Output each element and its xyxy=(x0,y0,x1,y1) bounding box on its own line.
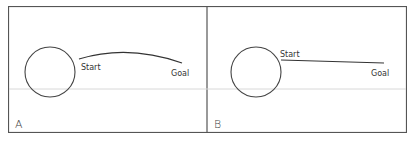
panel-b-label: B xyxy=(214,118,221,131)
panel-b-start-label: Start xyxy=(280,50,300,59)
panel-a-label: A xyxy=(15,118,23,131)
panel-a-start-label: Start xyxy=(81,63,101,72)
panel-b-straight-path xyxy=(281,60,384,63)
two-panel-diagram: Start Goal A Start Goal B xyxy=(8,6,407,133)
diagram-canvas: Start Goal A Start Goal B xyxy=(8,6,407,133)
panel-a-goal-label: Goal xyxy=(171,69,189,78)
panel-a-curved-path xyxy=(79,52,182,63)
panel-b-goal-label: Goal xyxy=(371,69,389,78)
